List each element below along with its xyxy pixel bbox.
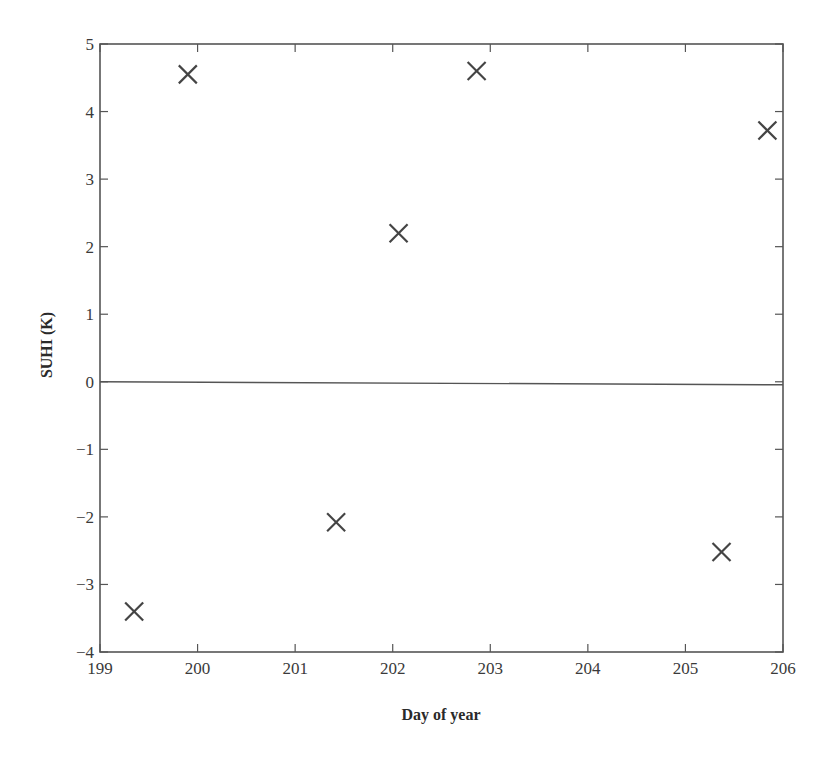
x-marker-point	[758, 121, 776, 139]
y-tick-label: 3	[86, 170, 95, 189]
y-tick-label: 5	[86, 35, 95, 54]
x-tick-label: 203	[478, 659, 504, 678]
x-tick-label: 202	[380, 659, 406, 678]
y-tick-label: 2	[86, 238, 95, 257]
x-marker-point	[390, 224, 408, 242]
y-tick-label: −4	[76, 643, 95, 662]
y-tick-label: 0	[86, 373, 95, 392]
scatter-chart: 199200201202203204205206 −4−3−2−1012345 …	[0, 0, 833, 760]
x-marker-point	[713, 543, 731, 561]
x-marker-point	[327, 513, 345, 531]
zero-reference-line	[100, 382, 783, 385]
y-tick-label: −3	[76, 575, 94, 594]
x-marker-point	[179, 65, 197, 83]
x-tick-label: 201	[282, 659, 308, 678]
y-tick-label: 4	[86, 103, 95, 122]
y-tick-label: 1	[86, 305, 95, 324]
plot-border	[100, 44, 783, 652]
x-marker-point	[468, 62, 486, 80]
x-tick-label: 206	[770, 659, 796, 678]
y-axis-title: SUHI (K)	[38, 312, 56, 378]
plot-frame	[100, 44, 783, 652]
x-axis-ticks: 199200201202203204205206	[87, 44, 796, 678]
y-axis-ticks: −4−3−2−1012345	[76, 35, 783, 662]
zero-line	[100, 382, 783, 385]
y-tick-label: −2	[76, 508, 94, 527]
x-tick-label: 205	[673, 659, 699, 678]
y-tick-label: −1	[76, 440, 94, 459]
data-points	[125, 62, 776, 620]
x-marker-point	[125, 602, 143, 620]
x-tick-label: 204	[575, 659, 601, 678]
x-tick-label: 200	[185, 659, 211, 678]
x-axis-title: Day of year	[401, 706, 480, 724]
